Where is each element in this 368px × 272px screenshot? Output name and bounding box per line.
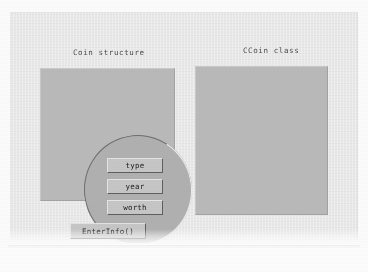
diagram-screenshot: Coin structure type year worth CCoin cla… bbox=[0, 0, 368, 272]
standalone-function-enterinfo[interactable]: EnterInfo() bbox=[70, 223, 146, 239]
panel-title-ccoin-class: CCoin class bbox=[243, 46, 299, 55]
panel-ccoin-class[interactable]: type year worth EnterInfo() bbox=[195, 66, 328, 215]
field-box-year-struct[interactable]: year bbox=[107, 179, 163, 194]
field-box-type-struct[interactable]: type bbox=[107, 158, 163, 173]
diagram-canvas: Coin structure type year worth CCoin cla… bbox=[10, 12, 358, 243]
panel-title-coin-structure: Coin structure bbox=[73, 48, 145, 57]
panel-coin-structure[interactable]: type year worth bbox=[40, 68, 175, 201]
canvas-bottom-band bbox=[10, 229, 358, 243]
page-bottom-margin bbox=[0, 243, 368, 272]
field-box-worth-struct[interactable]: worth bbox=[107, 200, 163, 215]
